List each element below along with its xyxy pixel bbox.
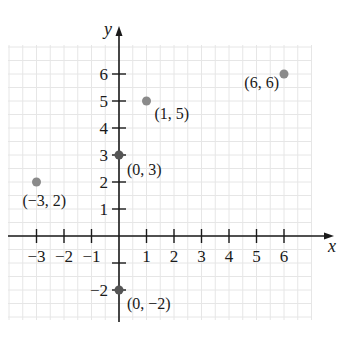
y-tick-label: 6 [100, 65, 109, 84]
y-axis-arrow-icon [116, 26, 123, 36]
x-tick-label: −3 [27, 247, 45, 266]
x-axis-label: x [327, 236, 336, 256]
x-tick-label: 3 [197, 247, 206, 266]
x-tick-label: −1 [82, 247, 100, 266]
x-tick-label: 4 [225, 247, 234, 266]
data-point [142, 97, 151, 106]
data-point [32, 178, 41, 187]
y-tick-label: 4 [100, 119, 109, 138]
point-label: (6, 6) [244, 74, 279, 92]
y-tick-label: 2 [100, 173, 109, 192]
point-label: (0, −2) [127, 295, 171, 313]
x-tick-label: 6 [280, 247, 289, 266]
x-tick-label: −2 [55, 247, 73, 266]
coordinate-plane: xy −3−2−1123456−2123456 (−3, 2)(0, 3)(1,… [0, 0, 355, 341]
y-tick-label: 1 [100, 200, 109, 219]
y-tick-label: 3 [100, 146, 109, 165]
point-label: (−3, 2) [23, 192, 67, 210]
data-point [115, 151, 124, 160]
point-label: (0, 3) [127, 161, 162, 179]
x-tick-label: 2 [170, 247, 179, 266]
point-label: (1, 5) [155, 105, 190, 123]
y-axis-label: y [102, 19, 112, 39]
data-point [115, 286, 124, 295]
y-tick-label: −2 [90, 281, 108, 300]
x-tick-label: 5 [252, 247, 261, 266]
data-point [280, 70, 289, 79]
y-tick-label: 5 [100, 92, 109, 111]
x-tick-label: 1 [142, 247, 151, 266]
